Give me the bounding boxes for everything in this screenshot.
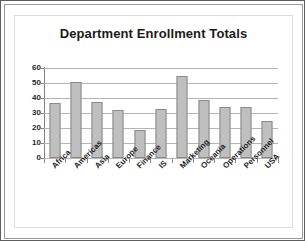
bar-slot — [65, 68, 86, 158]
y-axis-tick-label: 20 — [5, 124, 41, 132]
chart-title: Department Enrollment Totals — [14, 26, 293, 41]
bar-americas[interactable] — [70, 82, 81, 159]
bar-slot — [172, 68, 193, 158]
bar-slot — [108, 68, 129, 158]
y-axis-tick-label: 50 — [5, 79, 41, 87]
y-axis: 0102030405060 — [1, 1, 41, 241]
y-axis-tick-label: 60 — [5, 64, 41, 72]
chart-frame: Department Enrollment Totals 01020304050… — [0, 0, 305, 241]
bar-slot — [44, 68, 65, 158]
y-axis-tick-label: 30 — [5, 109, 41, 117]
y-axis-tick-label: 0 — [5, 154, 41, 162]
bar-marketing[interactable] — [177, 76, 188, 159]
y-axis-tick-label: 10 — [5, 139, 41, 147]
bar-africa[interactable] — [49, 103, 60, 159]
bar-europe[interactable] — [113, 110, 124, 158]
y-axis-tick-label: 40 — [5, 94, 41, 102]
